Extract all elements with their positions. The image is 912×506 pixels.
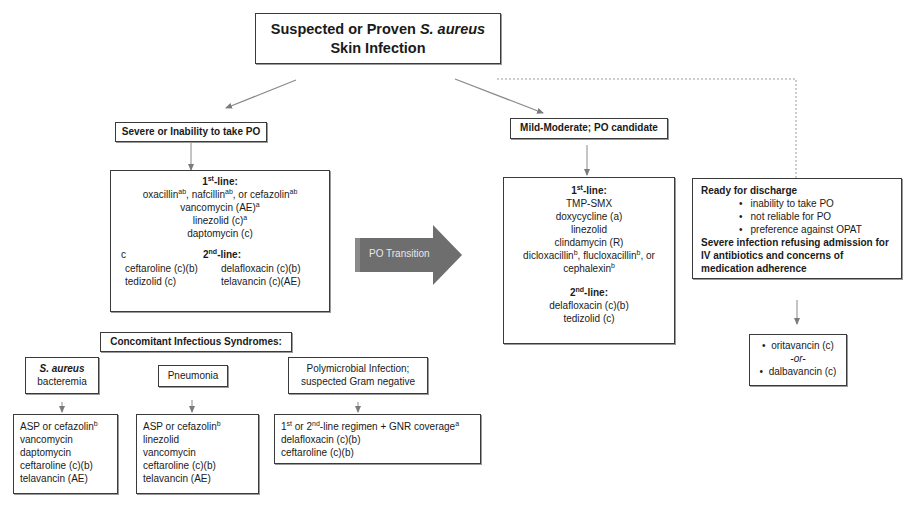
pneumonia-item-4: telavancin (AE) — [143, 472, 258, 485]
mild-label: Mild-Moderate; PO candidate — [520, 122, 658, 133]
title-box: Suspected or Proven S. aureus Skin Infec… — [255, 13, 501, 64]
polymicrobial-label-box: Polymicrobial Infection; suspected Gram … — [288, 357, 428, 394]
mild-beta-lactams: dicloxacillinb, flucloxacillinb, or — [504, 249, 674, 262]
severe-vancomycin: vancomycin (AE)a — [111, 201, 329, 214]
bacteremia-item-1: vancomycin — [20, 433, 117, 446]
bacteremia-label-box: S. aureus bacteremia — [25, 357, 99, 394]
severe-ceftaroline: ceftaroline (c)(b) — [125, 262, 198, 275]
discharge-criteria-box: Ready for discharge inability to take PO… — [692, 178, 902, 279]
concomitant-label: Concomitant Infectious Syndromes: — [110, 336, 282, 347]
severe-linezolid: linezolid (c)a — [111, 214, 329, 227]
arrow-title-to-mild — [455, 79, 543, 113]
severe-tedizolid: tedizolid (c) — [125, 275, 176, 288]
mild-second-line-header: 2nd-line: — [504, 286, 674, 299]
pneumonia-item-0: ASP or cefazolinb — [143, 420, 258, 433]
polymicrobial-item-0: 1st or 2nd-line regimen + GNR coveragea — [281, 420, 480, 433]
mild-linezolid: linezolid — [504, 223, 674, 236]
severe-label-box: Severe or Inability to take PO — [115, 122, 267, 142]
pneumonia-item-2: vancomycin — [143, 446, 258, 459]
discharge-bullets: inability to take PO not reliable for PO… — [701, 197, 895, 236]
bacteremia-item-2: daptomycin — [20, 446, 117, 459]
bacteremia-item-4: telavancin (AE) — [20, 472, 117, 485]
severe-penicillins: oxacillinab, nafcillinab, or cefazolinab — [111, 188, 329, 201]
title-line2: Skin Infection — [256, 39, 500, 58]
bacteremia-item-0: ASP or cefazolinb — [20, 420, 117, 433]
severe-treatment-box: 1st-line: oxacillinab, nafcillinab, or c… — [110, 170, 330, 312]
severe-first-line-header: 1st-line: — [111, 175, 329, 188]
mild-delafloxacin: delafloxacin (c)(b) — [504, 299, 674, 312]
title-text: Suspected or Proven — [271, 21, 420, 37]
option-or: -or- — [750, 352, 846, 365]
option-dalbavancin: • dalbavancin (c) — [750, 365, 846, 378]
mild-clindamycin: clindamycin (R) — [504, 236, 674, 249]
discharge-bullet: inability to take PO — [739, 197, 895, 210]
pneumonia-label-box: Pneumonia — [158, 365, 228, 387]
pneumonia-label: Pneumonia — [168, 370, 219, 381]
severe-telavancin: telavancin (c)(AE) — [221, 275, 300, 288]
po-transition-arrow: PO Transition — [355, 224, 463, 286]
severe-label: Severe or Inability to take PO — [122, 126, 260, 137]
pneumonia-treatment-box: ASP or cefazolinb linezolid vancomycin c… — [136, 414, 259, 494]
polymicrobial-label-line2: suspected Gram negative — [289, 375, 427, 388]
polymicrobial-label-line1: Polymicrobial Infection; — [289, 362, 427, 375]
discharge-bullet: preference against OPAT — [739, 223, 895, 236]
polymicrobial-item-2: ceftaroline (c)(b) — [281, 446, 480, 459]
stray-c-text: c — [121, 248, 126, 261]
pneumonia-item-1: linezolid — [143, 433, 258, 446]
mild-tmp-smx: TMP-SMX — [504, 197, 674, 210]
polymicrobial-treatment-box: 1st or 2nd-line regimen + GNR coveragea … — [274, 414, 481, 464]
severe-second-line-header: 2nd-line: — [203, 248, 241, 261]
option-oritavancin: • oritavancin (c) — [750, 339, 846, 352]
bacteremia-label: bacteremia — [26, 375, 98, 388]
concomitant-header-box: Concomitant Infectious Syndromes: — [100, 332, 292, 352]
po-transition-label: PO Transition — [369, 248, 430, 259]
bacteremia-organism: S. aureus — [26, 362, 98, 375]
polymicrobial-item-1: delafloxacin (c)(b) — [281, 433, 480, 446]
arrow-title-to-severe — [226, 80, 296, 108]
mild-first-line-header: 1st-line: — [504, 184, 674, 197]
discharge-header: Ready for discharge — [701, 184, 895, 197]
mild-cephalexin: cephalexinb — [504, 262, 674, 275]
severe-daptomycin: daptomycin (c) — [111, 227, 329, 240]
mild-treatment-box: 1st-line: TMP-SMX doxycycline (a) linezo… — [503, 177, 675, 344]
bacteremia-item-3: ceftaroline (c)(b) — [20, 459, 117, 472]
long-acting-options-box: • oritavancin (c) -or- • dalbavancin (c) — [749, 334, 847, 386]
mild-label-box: Mild-Moderate; PO candidate — [510, 118, 668, 139]
discharge-severe-text: Severe infection refusing admission for … — [701, 236, 895, 275]
title-organism: S. aureus — [420, 21, 485, 37]
bacteremia-treatment-box: ASP or cefazolinb vancomycin daptomycin … — [13, 414, 118, 494]
severe-delafloxacin: delafloxacin (c)(b) — [221, 262, 300, 275]
discharge-bullet: not reliable for PO — [739, 210, 895, 223]
mild-tedizolid: tedizolid (c) — [504, 312, 674, 325]
pneumonia-item-3: ceftaroline (c)(b) — [143, 459, 258, 472]
mild-doxycycline: doxycycline (a) — [504, 210, 674, 223]
